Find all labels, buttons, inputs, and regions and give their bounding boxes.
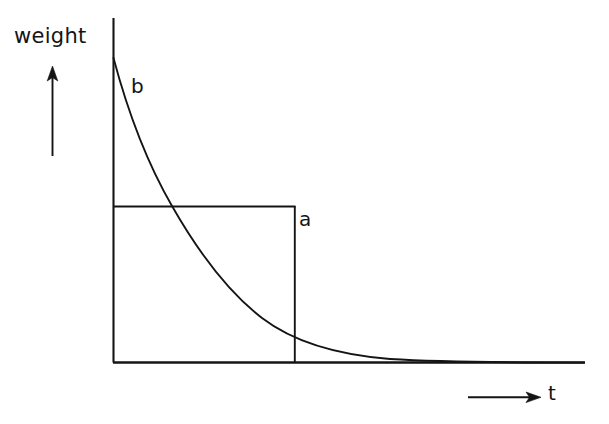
curve-label-b: b [131,76,144,96]
x-axis-label: t [548,383,556,403]
x-axis-direction-arrow [468,392,541,403]
figure-root: weight b a t [0,0,609,424]
rectangle-label-a: a [299,209,311,229]
y-axis-label: weight [14,26,87,47]
y-axis-direction-arrow [47,66,58,156]
exponential-decay-curve [114,58,585,363]
